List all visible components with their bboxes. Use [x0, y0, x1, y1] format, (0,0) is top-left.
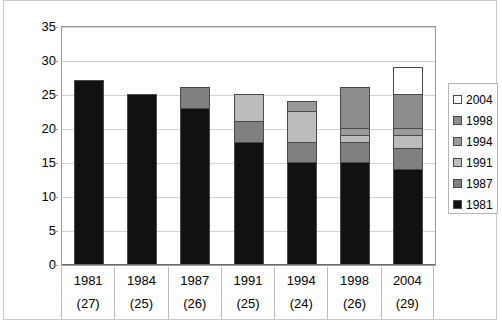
- legend-item[interactable]: 1994: [453, 131, 497, 152]
- legend-label: 2004: [466, 93, 493, 107]
- x-axis-count-label: (26): [328, 296, 380, 311]
- legend-swatch-icon: [453, 116, 462, 125]
- bar-segment[interactable]: [393, 94, 423, 128]
- legend-item[interactable]: 1981: [453, 194, 497, 215]
- bar-group[interactable]: [180, 87, 210, 264]
- legend-label: 1991: [466, 156, 493, 170]
- x-axis-year-label: 1991: [222, 273, 274, 288]
- y-axis-tick: [53, 61, 58, 62]
- legend-swatch-icon: [453, 200, 462, 209]
- chart-frame: 35302520151050 1981(27)1984(25)1987(26)1…: [3, 0, 497, 320]
- bar-segment[interactable]: [287, 162, 317, 264]
- bar-segment[interactable]: [393, 128, 423, 135]
- x-axis-column: 1998(26): [327, 267, 380, 319]
- x-axis-year-label: 2004: [382, 273, 433, 288]
- y-axis-tick-label: 15: [10, 158, 56, 168]
- bar-segment[interactable]: [287, 101, 317, 111]
- bar-segment[interactable]: [393, 148, 423, 168]
- bar-segment[interactable]: [340, 142, 370, 162]
- chart-legend: 200419981994199119871981: [448, 83, 498, 214]
- legend-label: 1998: [466, 114, 493, 128]
- legend-label: 1994: [466, 135, 493, 149]
- y-axis-tick-label: 20: [10, 124, 56, 134]
- bar-group[interactable]: [74, 80, 104, 264]
- x-axis-count-label: (25): [115, 296, 167, 311]
- bar-segment[interactable]: [180, 108, 210, 264]
- legend-swatch-icon: [453, 179, 462, 188]
- bar-segment[interactable]: [393, 67, 423, 94]
- x-axis-count-label: (27): [62, 296, 114, 311]
- bar-group[interactable]: [127, 94, 157, 264]
- x-axis-baseline: [62, 264, 435, 265]
- bar-segment[interactable]: [340, 135, 370, 142]
- bar-segment[interactable]: [287, 142, 317, 162]
- bar-segment[interactable]: [180, 87, 210, 107]
- y-axis: 35302520151050: [4, 26, 56, 267]
- legend-item[interactable]: 1987: [453, 173, 497, 194]
- legend-item[interactable]: 2004: [453, 89, 497, 110]
- y-axis-tick: [53, 265, 58, 266]
- y-axis-tick-label: 25: [10, 90, 56, 100]
- x-axis-count-label: (25): [222, 296, 274, 311]
- bar-group[interactable]: [234, 94, 264, 264]
- x-axis-count-label: (26): [169, 296, 221, 311]
- bar-group[interactable]: [287, 101, 317, 264]
- x-axis-column: 1987(26): [168, 267, 221, 319]
- x-axis-labels: 1981(27)1984(25)1987(26)1991(25)1994(24)…: [61, 267, 436, 319]
- legend-label: 1987: [466, 177, 493, 191]
- bar-segment[interactable]: [287, 111, 317, 142]
- y-axis-tick: [53, 129, 58, 130]
- legend-swatch-icon: [453, 95, 462, 104]
- bar-segment[interactable]: [393, 169, 423, 264]
- bar-group[interactable]: [340, 87, 370, 264]
- x-axis-count-label: (29): [382, 296, 433, 311]
- bar-segment[interactable]: [234, 94, 264, 121]
- plot-area: [61, 26, 436, 266]
- bar-segment[interactable]: [127, 94, 157, 264]
- legend-label: 1981: [466, 198, 493, 212]
- legend-swatch-icon: [453, 137, 462, 146]
- y-axis-tick-label: 35: [10, 22, 56, 32]
- y-axis-tick: [53, 95, 58, 96]
- y-axis-tick: [53, 27, 58, 28]
- x-axis-year-label: 1981: [62, 273, 114, 288]
- x-axis-column: 1984(25): [114, 267, 167, 319]
- bar-group[interactable]: [393, 67, 423, 264]
- y-axis-tick-label: 5: [10, 226, 56, 236]
- legend-swatch-icon: [453, 158, 462, 167]
- bar-segment[interactable]: [393, 135, 423, 149]
- legend-item[interactable]: 1991: [453, 152, 497, 173]
- x-axis-year-label: 1994: [275, 273, 327, 288]
- bar-segment[interactable]: [340, 162, 370, 264]
- x-axis-column: 1994(24): [274, 267, 327, 319]
- x-axis-column: 1991(25): [221, 267, 274, 319]
- y-axis-tick: [53, 197, 58, 198]
- x-axis-column: 1981(27): [61, 267, 114, 319]
- bar-segment[interactable]: [74, 80, 104, 264]
- x-axis-column: 2004(29): [381, 267, 434, 319]
- y-axis-tick-label: 30: [10, 56, 56, 66]
- x-axis-year-label: 1987: [169, 273, 221, 288]
- y-axis-tick: [53, 231, 58, 232]
- bar-segment[interactable]: [234, 121, 264, 141]
- x-axis-year-label: 1998: [328, 273, 380, 288]
- x-axis-year-label: 1984: [115, 273, 167, 288]
- y-axis-tick-label: 0: [10, 260, 56, 270]
- y-axis-tick: [53, 163, 58, 164]
- y-axis-tick-label: 10: [10, 192, 56, 202]
- legend-item[interactable]: 1998: [453, 110, 497, 131]
- x-axis-count-label: (24): [275, 296, 327, 311]
- bar-segment[interactable]: [340, 128, 370, 135]
- bars-layer: [62, 27, 435, 265]
- bar-segment[interactable]: [340, 87, 370, 128]
- bar-segment[interactable]: [234, 142, 264, 264]
